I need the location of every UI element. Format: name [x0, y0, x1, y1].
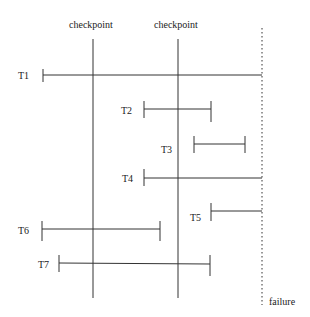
transaction-t6 [42, 221, 160, 241]
transaction-label-t2: T2 [121, 106, 132, 116]
transaction-t3 [194, 136, 245, 153]
transaction-label-t3: T3 [161, 145, 172, 155]
transaction-t1 [43, 69, 262, 82]
transaction-label-t4: T4 [122, 174, 133, 184]
transaction-label-t7: T7 [38, 260, 49, 270]
transaction-t5 [211, 203, 262, 221]
transaction-t7 [59, 255, 210, 276]
transaction-label-t6: T6 [18, 226, 29, 236]
transaction-label-t1: T1 [18, 71, 29, 81]
checkpoint-label-1: checkpoint [69, 20, 113, 30]
transaction-t4 [144, 169, 262, 186]
checkpoint-label-2: checkpoint [154, 20, 198, 30]
failure-label: failure [269, 297, 295, 307]
transaction-label-t5: T5 [190, 213, 201, 223]
